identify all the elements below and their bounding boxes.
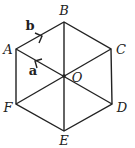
center-label-O: O bbox=[72, 70, 83, 85]
vector-label-b: b bbox=[25, 18, 34, 33]
vertex-label-E: E bbox=[58, 133, 69, 148]
vertex-label-A: A bbox=[2, 42, 12, 57]
vector-label-a: a bbox=[29, 63, 38, 78]
vertex-label-D: D bbox=[116, 100, 128, 115]
hexagon-diagram: b a A B C D E F O bbox=[0, 0, 135, 148]
vertex-label-C: C bbox=[116, 42, 126, 57]
center-point-O bbox=[62, 74, 66, 78]
vertex-label-B: B bbox=[58, 3, 69, 18]
vertex-label-F: F bbox=[2, 100, 13, 115]
